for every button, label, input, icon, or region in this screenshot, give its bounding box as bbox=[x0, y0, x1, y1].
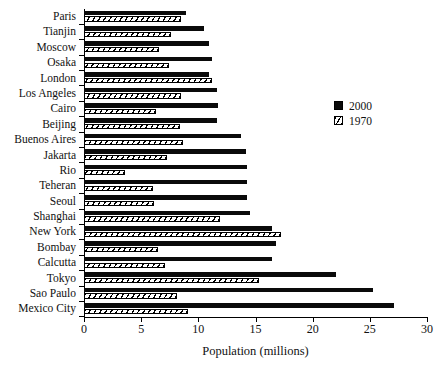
bar-group bbox=[84, 40, 427, 55]
bar-1970 bbox=[84, 216, 220, 221]
y-axis-label: Bombay bbox=[0, 240, 80, 255]
bar-1970 bbox=[84, 155, 167, 160]
bar-group bbox=[84, 71, 427, 86]
bar-group bbox=[84, 163, 427, 178]
x-axis-ticks: 051015202530 bbox=[84, 317, 427, 345]
bar-group bbox=[84, 24, 427, 39]
bar-2000 bbox=[84, 57, 212, 62]
bar-1970 bbox=[84, 186, 153, 191]
y-axis-label: New York bbox=[0, 224, 80, 239]
bar-group bbox=[84, 148, 427, 163]
y-axis-label: Jakarta bbox=[0, 148, 80, 163]
bar-2000 bbox=[84, 288, 373, 293]
bar-group bbox=[84, 209, 427, 224]
bar-1970 bbox=[84, 63, 169, 68]
bar-group bbox=[84, 178, 427, 193]
bar-1970 bbox=[84, 293, 177, 298]
bar-group bbox=[84, 224, 427, 239]
bar-1970 bbox=[84, 109, 156, 114]
x-tick-label: 5 bbox=[138, 322, 144, 337]
bar-2000 bbox=[84, 26, 204, 31]
y-axis-label: Buenos Aires bbox=[0, 132, 80, 147]
bar-1970 bbox=[84, 124, 180, 129]
y-axis-label: Osaka bbox=[0, 55, 80, 70]
bar-2000 bbox=[84, 149, 246, 154]
y-axis-label: Shanghai bbox=[0, 209, 80, 224]
bar-group bbox=[84, 194, 427, 209]
x-tick-label: 15 bbox=[250, 322, 262, 337]
bar-2000 bbox=[84, 165, 247, 170]
bar-group bbox=[84, 9, 427, 24]
y-axis-label: Cairo bbox=[0, 101, 80, 116]
bar-1970 bbox=[84, 16, 181, 21]
bar-1970 bbox=[84, 140, 183, 145]
population-bar-chart: ParisTianjinMoscowOsakaLondonLos Angeles… bbox=[0, 0, 445, 380]
y-axis-label: Mexico City bbox=[0, 301, 80, 316]
bar-group bbox=[84, 240, 427, 255]
bar-2000 bbox=[84, 303, 394, 308]
x-tick-label: 25 bbox=[364, 322, 376, 337]
bar-1970 bbox=[84, 93, 181, 98]
bar-group bbox=[84, 132, 427, 147]
bar-1970 bbox=[84, 47, 159, 52]
bar-2000 bbox=[84, 211, 250, 216]
y-axis-label: Beijing bbox=[0, 117, 80, 132]
y-axis-label: Tianjin bbox=[0, 24, 80, 39]
bar-group bbox=[84, 301, 427, 316]
x-tick-label: 0 bbox=[81, 322, 87, 337]
bar-1970 bbox=[84, 78, 212, 83]
bar-group bbox=[84, 55, 427, 70]
chart-legend: 2000 1970 bbox=[334, 98, 406, 128]
bar-2000 bbox=[84, 88, 217, 93]
bar-1970 bbox=[84, 232, 281, 237]
y-axis-label: Rio bbox=[0, 163, 80, 178]
y-axis-label: Calcutta bbox=[0, 255, 80, 270]
bar-2000 bbox=[84, 41, 209, 46]
bar-2000 bbox=[84, 180, 247, 185]
y-axis-label: Los Angeles bbox=[0, 86, 80, 101]
y-axis-label: Teheran bbox=[0, 178, 80, 193]
bar-group bbox=[84, 286, 427, 301]
legend-item-2000: 2000 bbox=[334, 98, 406, 113]
bar-2000 bbox=[84, 118, 217, 123]
bar-1970 bbox=[84, 170, 125, 175]
bar-1970 bbox=[84, 263, 165, 268]
legend-label-2000: 2000 bbox=[349, 100, 372, 112]
x-tick-label: 10 bbox=[192, 322, 204, 337]
bar-rows bbox=[84, 9, 427, 317]
y-axis-category-labels: ParisTianjinMoscowOsakaLondonLos Angeles… bbox=[0, 9, 80, 317]
bar-2000 bbox=[84, 11, 186, 16]
bar-2000 bbox=[84, 134, 241, 139]
legend-label-1970: 1970 bbox=[349, 115, 372, 127]
bar-1970 bbox=[84, 32, 171, 37]
bar-2000 bbox=[84, 272, 336, 277]
y-axis-label: Sao Paulo bbox=[0, 286, 80, 301]
y-axis-label: London bbox=[0, 71, 80, 86]
legend-swatch-solid-icon bbox=[334, 101, 343, 110]
bar-1970 bbox=[84, 309, 188, 314]
y-axis-label: Seoul bbox=[0, 194, 80, 209]
bar-2000 bbox=[84, 103, 218, 108]
y-axis-label: Paris bbox=[0, 9, 80, 24]
bar-group bbox=[84, 271, 427, 286]
x-tick-label: 30 bbox=[421, 322, 433, 337]
legend-item-1970: 1970 bbox=[334, 113, 406, 128]
legend-swatch-hatch-icon bbox=[334, 116, 343, 125]
bar-1970 bbox=[84, 201, 154, 206]
y-axis-label: Tokyo bbox=[0, 271, 80, 286]
y-axis-label: Moscow bbox=[0, 40, 80, 55]
bar-2000 bbox=[84, 195, 247, 200]
bar-2000 bbox=[84, 241, 276, 246]
x-axis-title: Population (millions) bbox=[84, 344, 427, 359]
bar-2000 bbox=[84, 72, 209, 77]
bar-1970 bbox=[84, 278, 259, 283]
x-tick-label: 20 bbox=[307, 322, 319, 337]
bar-group bbox=[84, 255, 427, 270]
bar-2000 bbox=[84, 226, 272, 231]
bar-2000 bbox=[84, 257, 272, 262]
bar-1970 bbox=[84, 247, 158, 252]
